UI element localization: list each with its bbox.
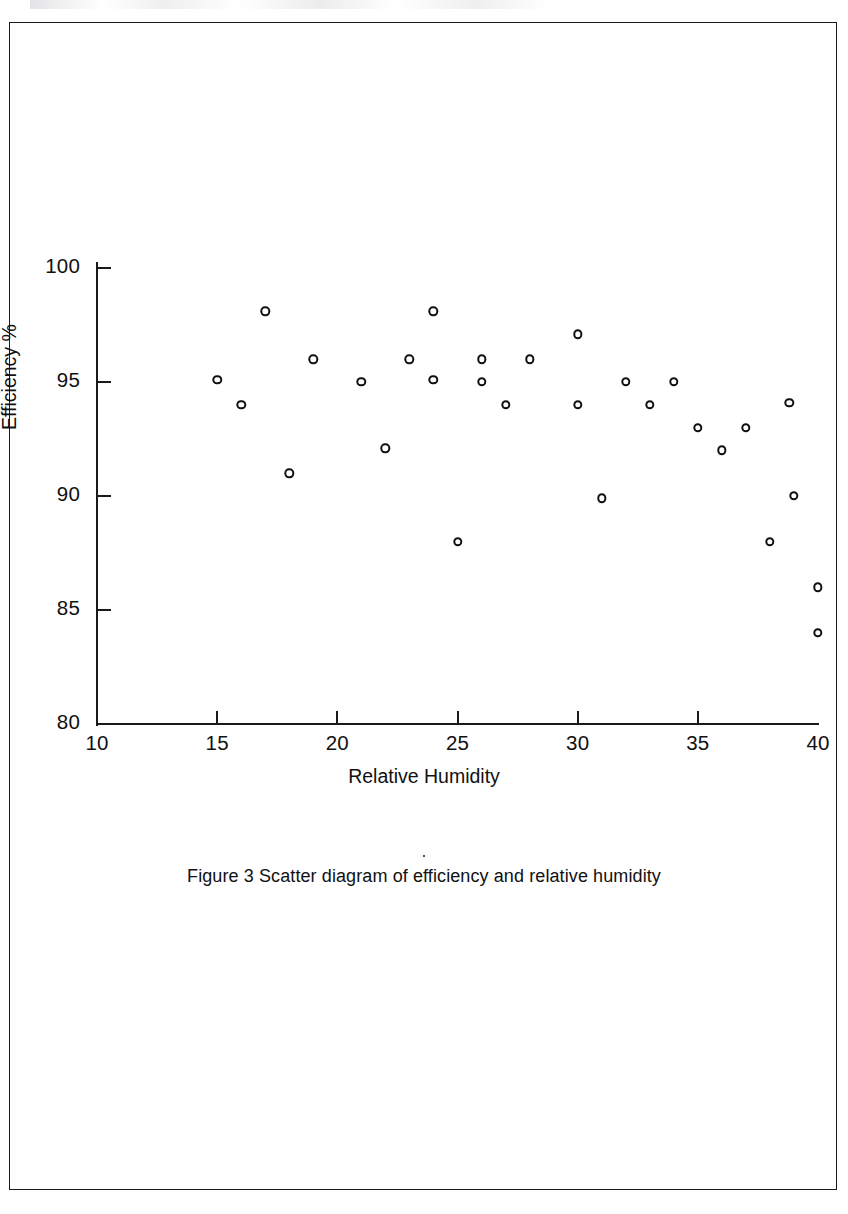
data-point: [717, 446, 726, 455]
data-point: [236, 400, 245, 409]
data-point: [429, 375, 438, 384]
data-point: [309, 354, 318, 363]
data-point: [405, 354, 414, 363]
x-tick-label-40: 40: [788, 731, 848, 755]
data-point: [813, 628, 822, 637]
data-point: [573, 400, 582, 409]
data-point: [693, 423, 702, 432]
data-point: [621, 377, 630, 386]
scan-speck: [423, 855, 425, 857]
data-point: [477, 354, 486, 363]
y-axis-title: Efficiency %: [0, 324, 21, 430]
x-tick-label-25: 25: [428, 731, 488, 755]
data-point: [501, 400, 510, 409]
data-point: [813, 582, 822, 591]
data-point: [669, 377, 678, 386]
x-tick-label-10: 10: [67, 731, 127, 755]
figure-caption: Figure 3 Scatter diagram of efficiency a…: [0, 866, 848, 887]
data-point: [261, 307, 270, 316]
data-point: [765, 537, 774, 546]
data-point: [645, 400, 654, 409]
y-tick-label-100: 100: [20, 254, 80, 278]
x-tick-label-35: 35: [668, 731, 728, 755]
data-point: [285, 468, 294, 477]
data-point: [477, 377, 486, 386]
data-point: [573, 329, 582, 338]
plot-area: [97, 268, 818, 724]
y-tick-label-95: 95: [20, 368, 80, 392]
data-point: [741, 423, 750, 432]
x-axis-title: Relative Humidity: [0, 765, 848, 788]
data-point: [381, 443, 390, 452]
data-point: [525, 354, 534, 363]
data-point: [429, 307, 438, 316]
data-point: [357, 377, 366, 386]
data-point: [784, 398, 793, 407]
figure-3-scatter-diagram: 80859095100 10152025303540 Efficiency % …: [0, 0, 848, 1214]
data-point: [789, 491, 798, 500]
x-tick-label-20: 20: [307, 731, 367, 755]
y-tick-label-90: 90: [20, 482, 80, 506]
data-point: [453, 537, 462, 546]
x-tick-label-15: 15: [187, 731, 247, 755]
y-tick-label-85: 85: [20, 596, 80, 620]
data-point: [212, 375, 221, 384]
x-tick-label-30: 30: [548, 731, 608, 755]
data-point: [597, 494, 606, 503]
